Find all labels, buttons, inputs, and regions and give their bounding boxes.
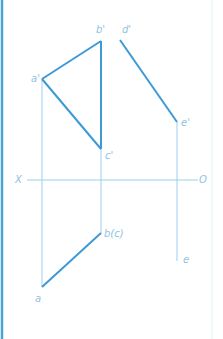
projection-drawing xyxy=(0,0,223,339)
label-axis-x: X xyxy=(15,175,22,185)
label-e: e xyxy=(183,255,189,265)
edge-d-prime-e-prime xyxy=(120,40,177,122)
label-e-prime: e' xyxy=(181,118,190,128)
label-c-prime: c' xyxy=(105,151,113,161)
label-a: a xyxy=(35,294,41,304)
label-axis-o: O xyxy=(199,175,207,185)
diagram-frame: b' d' a' c' e' X O b(c) a e xyxy=(0,0,223,339)
edge-a-prime-c-prime xyxy=(42,79,101,149)
label-d-prime: d' xyxy=(122,25,131,35)
edge-a-bc xyxy=(42,233,101,287)
label-b-prime: b' xyxy=(96,25,105,35)
label-a-prime: a' xyxy=(31,74,40,84)
label-b-c: b(c) xyxy=(104,229,124,239)
edge-a-prime-b-prime xyxy=(42,41,101,79)
